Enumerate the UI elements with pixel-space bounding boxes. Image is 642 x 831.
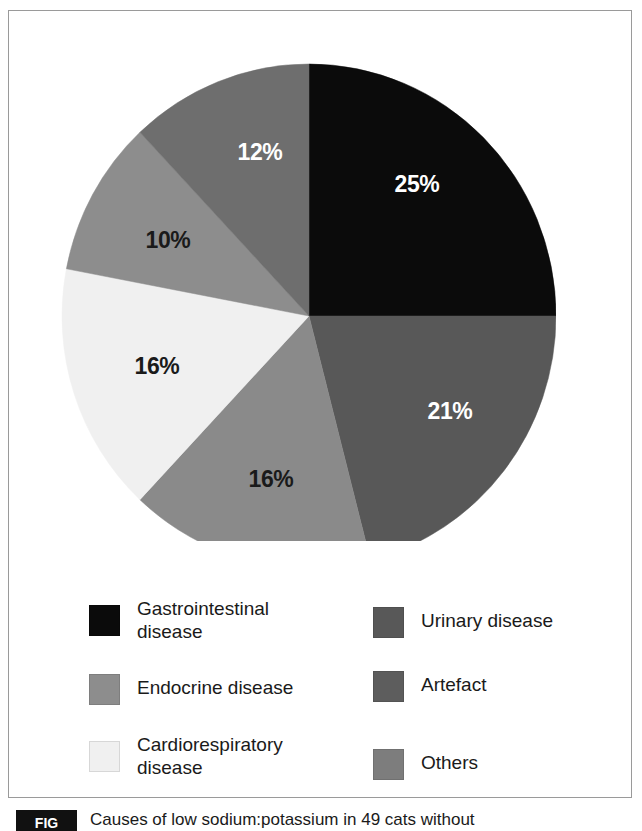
legend-color-swatch [89,605,120,636]
legend-item: Gastrointestinal disease [89,595,319,663]
legend-item: Endocrine disease [89,663,319,731]
figure-caption-text: Causes of low sodium:potassium in 49 cat… [90,809,475,831]
legend-color-swatch [373,607,404,638]
pie-slice-value-label: 21% [428,398,473,425]
pie-slice-value-label: 25% [395,171,440,198]
pie-chart-svg [56,36,556,541]
legend-color-swatch [373,671,404,702]
legend-item: Artefact [373,663,603,731]
pie-chart: 25%21%16%16%10%12% [9,11,633,566]
legend-item-label: Cardiorespiratory disease [137,733,283,779]
pie-slice-value-label: 16% [135,353,180,380]
legend-item: Others [373,731,603,799]
chart-legend: Gastrointestinal diseaseEndocrine diseas… [9,569,633,797]
figure-caption-row: FIG Causes of low sodium:potassium in 49… [8,806,632,831]
legend-item: Urinary disease [373,595,603,663]
legend-item-label: Artefact [421,673,486,696]
legend-color-swatch [89,741,120,772]
legend-item-label: Urinary disease [421,609,553,632]
pie-slice-value-label: 16% [249,466,294,493]
figure-number-tag: FIG [16,810,77,831]
figure-frame: 25%21%16%16%10%12% Gastrointestinal dise… [8,10,632,798]
pie-slice-value-label: 10% [146,227,191,254]
pie-slice-value-label: 12% [238,139,283,166]
legend-item-label: Endocrine disease [137,676,293,699]
legend-color-swatch [373,749,404,780]
legend-item: Cardiorespiratory disease [89,731,319,799]
legend-item-label: Others [421,751,478,774]
legend-color-swatch [89,674,120,705]
legend-column-right: Urinary diseaseArtefactOthers [373,595,603,799]
legend-item-label: Gastrointestinal disease [137,597,269,643]
legend-column-left: Gastrointestinal diseaseEndocrine diseas… [89,595,319,799]
